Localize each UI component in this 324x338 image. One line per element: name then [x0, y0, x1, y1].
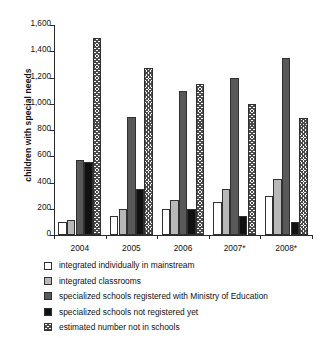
legend-item[interactable]: integrated classrooms: [44, 273, 320, 288]
bar: [84, 162, 93, 235]
bar: [230, 78, 239, 236]
chart-legend: integrated individually in mainstreamint…: [44, 258, 320, 335]
bar: [248, 104, 257, 235]
x-axis-label: 2006: [157, 243, 209, 253]
bar: [76, 160, 85, 235]
bar: [119, 209, 128, 235]
x-axis-line: [54, 235, 312, 236]
bar: [291, 222, 300, 235]
bar: [265, 196, 274, 235]
x-axis-label: 2005: [106, 243, 158, 253]
x-axis-label: 2007*: [209, 243, 261, 253]
y-axis-title: children with special needs: [23, 35, 33, 215]
legend-item[interactable]: estimated number not in schools: [44, 320, 320, 335]
bar: [239, 216, 248, 235]
y-tick-label: 1,000: [31, 98, 52, 107]
bar-chart: children with special needs 020040060080…: [0, 0, 324, 338]
legend-item-label: integrated classrooms: [59, 277, 141, 285]
bar: [273, 179, 282, 235]
y-tick-label: 800: [37, 124, 51, 133]
bar: [136, 189, 145, 235]
y-axis-line: [54, 25, 55, 236]
legend-swatch-icon: [44, 308, 52, 316]
bar: [170, 200, 179, 235]
x-tick-mark: [260, 235, 261, 239]
bar: [299, 118, 308, 235]
bar: [144, 68, 153, 235]
legend-swatch-icon: [44, 277, 52, 285]
bar: [127, 117, 136, 235]
bar: [162, 209, 171, 235]
legend-item-label: estimated number not in schools: [59, 323, 180, 331]
y-tick-label: 1,200: [31, 72, 52, 81]
legend-item[interactable]: specialized schools registered with Mini…: [44, 289, 320, 304]
bar: [187, 209, 196, 235]
x-tick-mark: [312, 235, 313, 239]
y-tick-label: 400: [37, 177, 51, 186]
y-tick-label: 0: [46, 229, 51, 238]
legend-item[interactable]: specialized schools not registered yet: [44, 304, 320, 319]
x-axis-label: 2004: [54, 243, 106, 253]
bar: [110, 216, 119, 235]
bar: [179, 91, 188, 235]
y-tick-label: 1,400: [31, 45, 52, 54]
x-tick-mark: [157, 235, 158, 239]
x-axis-label: 2008*: [260, 243, 312, 253]
plot-area: 02004006008001,0001,2001,4001,600 200420…: [54, 25, 312, 235]
y-tick-label: 1,600: [31, 19, 52, 28]
bar: [196, 84, 205, 235]
bar: [222, 189, 231, 235]
bar: [282, 58, 291, 235]
x-tick-mark: [209, 235, 210, 239]
legend-item-label: specialized schools registered with Mini…: [59, 292, 268, 300]
y-tick-label: 200: [37, 203, 51, 212]
y-tick-label: 600: [37, 150, 51, 159]
x-tick-mark: [106, 235, 107, 239]
legend-swatch-icon: [44, 292, 52, 300]
legend-swatch-icon: [44, 323, 52, 331]
legend-item-label: integrated individually in mainstream: [59, 261, 194, 269]
legend-swatch-icon: [44, 262, 52, 270]
bar: [58, 222, 67, 235]
bar: [213, 202, 222, 235]
bar: [93, 38, 102, 235]
bar: [67, 220, 76, 235]
legend-item-label: specialized schools not registered yet: [59, 308, 198, 316]
x-tick-mark: [54, 235, 55, 239]
legend-item[interactable]: integrated individually in mainstream: [44, 258, 320, 273]
